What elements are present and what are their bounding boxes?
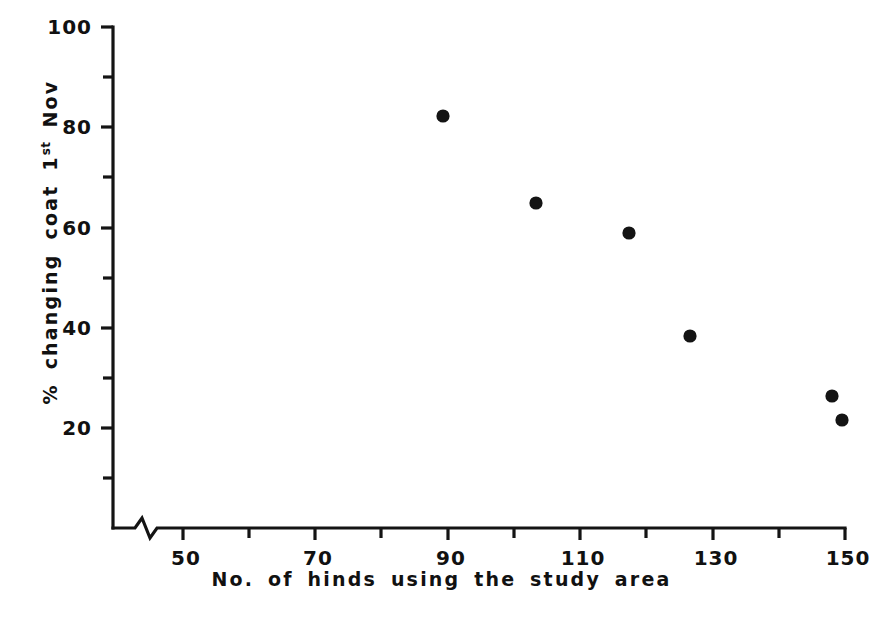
x-axis-label: No. of hinds using the study area [0, 568, 883, 590]
y-axis-label-after: Nov [39, 80, 61, 142]
data-point [835, 413, 848, 426]
data-point-series [436, 109, 848, 426]
x-tick-label-110: 110 [561, 546, 606, 570]
scatter-plot-figure: 100 80 60 40 20 50 70 90 110 130 150 No.… [0, 0, 883, 621]
y-axis-label: % changing coat 1st Nov [39, 80, 61, 405]
data-point [622, 226, 635, 239]
x-tick-label-130: 130 [694, 546, 739, 570]
plot-canvas [0, 0, 883, 621]
y-axis-label-before: % changing coat 1 [39, 155, 61, 404]
x-tick-label-150: 150 [826, 546, 871, 570]
data-point [529, 196, 542, 209]
y-axis-label-superscript: st [39, 141, 53, 155]
x-axis-line-with-break [113, 518, 845, 538]
x-tick-label-70: 70 [303, 546, 333, 570]
y-axis-label-container: % changing coat 1st Nov [30, 22, 70, 462]
y-major-ticks [101, 27, 113, 428]
x-tick-label-50: 50 [171, 546, 201, 570]
x-tick-label-90: 90 [436, 546, 466, 570]
data-point [683, 329, 696, 342]
data-point [436, 109, 449, 122]
data-point [825, 389, 838, 402]
